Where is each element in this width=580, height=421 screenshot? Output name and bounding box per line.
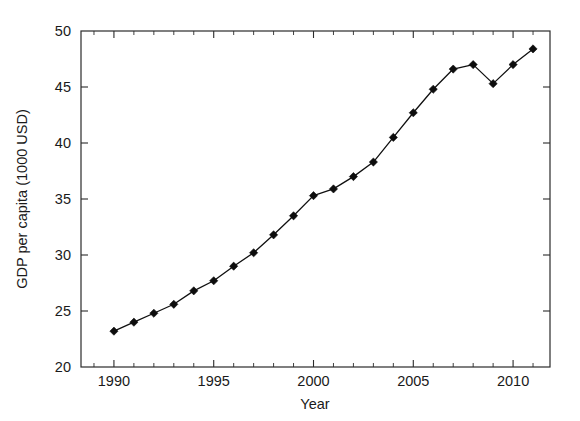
x-tick-label: 1995 — [198, 373, 230, 389]
chart-figure: 19901995200020052010 20253035404550 1990… — [0, 0, 580, 421]
x-tick-label: 2000 — [297, 373, 329, 389]
y-axis-title: GDP per capita (1000 USD) — [14, 109, 30, 288]
y-tick-label: 20 — [55, 359, 71, 375]
y-tick-label: 50 — [55, 23, 71, 39]
x-axis-title: Year — [300, 396, 329, 412]
x-tick-label: 1990 — [98, 373, 130, 389]
x-tick-label: 2005 — [397, 373, 429, 389]
y-tick-label: 30 — [55, 247, 71, 263]
y-tick-label: 40 — [55, 135, 71, 151]
y-tick-label: 35 — [55, 191, 71, 207]
gdp-per-capita-line-chart: 19901995200020052010 20253035404550 1990… — [0, 0, 580, 421]
y-tick-label: 45 — [55, 79, 71, 95]
x-tick-label: 2010 — [497, 373, 529, 389]
y-tick-label: 25 — [55, 303, 71, 319]
chart-background — [0, 0, 580, 421]
